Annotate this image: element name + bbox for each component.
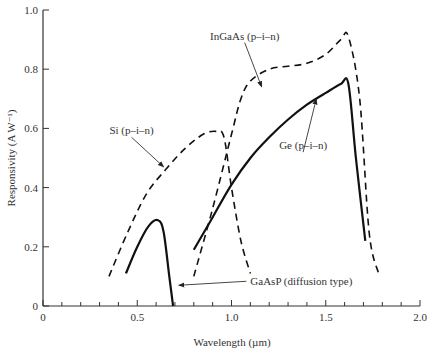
ticks: 00.51.01.52.000.20.40.60.81.0 [24,4,427,323]
y-axis-title: Responsivity (A W⁻¹) [5,109,18,206]
annotation-arrow [132,137,164,167]
responsivity-chart: 00.51.01.52.000.20.40.60.81.0 Si (p–i–n)… [0,0,434,355]
y-tick-label: 0 [33,300,39,312]
annotation-arrow [179,281,247,285]
series-group [109,32,379,306]
annotations: Si (p–i–n)InGaAs (p–i–n)Ge (p–i–n)GaAsP … [109,30,352,289]
x-tick-label: 1.0 [225,311,239,323]
annotation-label: InGaAs (p–i–n) [210,30,280,43]
x-tick-label: 0 [40,311,46,323]
y-tick-label: 1.0 [24,4,38,16]
y-tick-label: 0.8 [24,63,38,75]
y-tick-label: 0.4 [24,182,38,194]
x-tick-label: 2.0 [413,311,427,323]
x-axis-title: Wavelength (µm) [193,336,271,349]
annotation-label: GaAsP (diffusion type) [250,275,352,288]
x-tick-label: 1.5 [319,311,333,323]
axes [43,10,420,306]
y-tick-label: 0.2 [24,241,38,253]
series-gaasp-curve [126,220,173,306]
y-tick-label: 0.6 [24,122,38,134]
series-ingaas-curve [194,32,379,276]
series-ge-curve [194,78,365,250]
annotation-label: Si (p–i–n) [109,124,154,137]
series-si-curve [109,131,250,276]
x-tick-label: 0.5 [130,311,144,323]
annotation-arrow [245,43,262,87]
